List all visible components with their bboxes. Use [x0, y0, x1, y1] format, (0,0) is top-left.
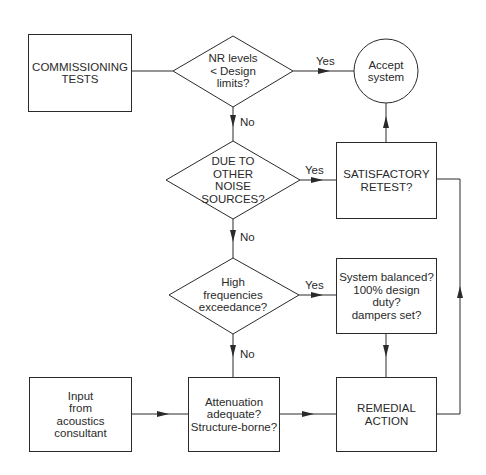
other-yes-label: Yes [305, 164, 324, 176]
accept-system-text-wrap: Accept system [356, 50, 416, 92]
commissioning-tests-box: COMMISSIONING TESTS [28, 34, 132, 112]
nr-yes-label: Yes [316, 55, 335, 67]
input-consultant-box: Input from acoustics consultant [29, 377, 132, 452]
system-balanced-box: System balanced? 100% design duty? dampe… [336, 258, 437, 334]
input-consultant-text: Input from acoustics consultant [54, 390, 106, 440]
other-no-label: No [240, 231, 255, 243]
hf-yes-label: Yes [305, 279, 324, 291]
high-freq-text-wrap: High frequencies exceedance? [188, 272, 278, 318]
hf-no-label: No [240, 348, 255, 360]
other-noise-text-wrap: DUE TO OTHER NOISE SOURCES? [188, 152, 278, 208]
high-freq-text: High frequencies exceedance? [199, 276, 267, 314]
attenuation-text: Attenuation adequate? Structure-borne? [191, 396, 277, 434]
nr-levels-text-wrap: NR levels < Design limits? [193, 46, 273, 96]
other-noise-text: DUE TO OTHER NOISE SOURCES? [201, 155, 264, 205]
nr-no-label: No [240, 116, 255, 128]
attenuation-box: Attenuation adequate? Structure-borne? [188, 377, 280, 452]
accept-system-text: Accept system [368, 59, 404, 84]
nr-levels-text: NR levels < Design limits? [208, 52, 257, 90]
remedial-action-box: REMEDIAL ACTION [336, 377, 437, 452]
satisfactory-retest-text: SATISFACTORY RETEST? [343, 168, 429, 193]
satisfactory-retest-box: SATISFACTORY RETEST? [336, 142, 437, 219]
remedial-action-text: REMEDIAL ACTION [357, 402, 416, 427]
system-balanced-text: System balanced? 100% design duty? dampe… [339, 271, 434, 321]
commissioning-tests-text: COMMISSIONING TESTS [32, 61, 128, 86]
